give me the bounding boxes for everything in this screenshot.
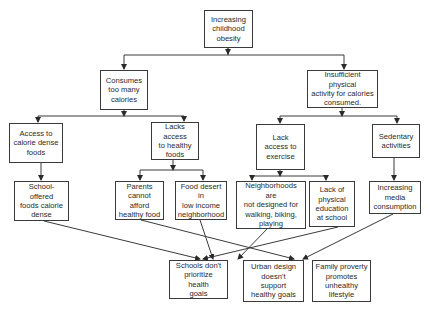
node-insufficient-physical-activity: Insufficient physical activity for calor… (307, 70, 378, 108)
edge-fooddesert-to-urban (200, 220, 213, 259)
node-family-poverty: Family proverty promotes unhealthy lifes… (312, 260, 371, 302)
node-consumes-too-many-calories: Consumes too many calories (100, 70, 148, 110)
node-schools-dont-prioritize: Schools don't prioritize health goals (169, 260, 228, 299)
node-urban-design: Urban design doesn't support healthy goa… (243, 260, 304, 302)
edge-exercise-to-neighborhoods (252, 176, 326, 180)
node-school-offered-foods: School-offered foods calorie dense (14, 181, 69, 221)
edge-root-to-calories (124, 48, 344, 69)
edge-healthy-to-parents (140, 170, 203, 180)
edge-schoolfoods-to-schoolsgoals (44, 221, 200, 259)
node-parents-cannot-afford: Parents cannot afford healthy food (115, 181, 164, 220)
node-increasing-childhood-obesity: Increasing childhood obesity (204, 10, 253, 48)
node-lack-access-to-exercise: Lack access to exercise (256, 124, 305, 170)
node-food-desert: Food desert in low income neighborhood (175, 181, 227, 220)
edge-activity-to-exercise (280, 116, 397, 123)
edge-physed-to-schoolsgoals (203, 227, 338, 259)
edge-neighborhoods-to-urban (238, 229, 267, 259)
node-access-to-calorie-dense-foods: Access to calorie dense foods (9, 123, 63, 163)
node-increasing-media-consumption: Increasing media consumption (369, 181, 421, 214)
diagram-canvas: Increasing childhood obesity Consumes to… (0, 0, 430, 315)
node-neighborhoods-not-designed: Neighborhoods are not designed for walki… (236, 181, 306, 229)
node-lack-of-physical-education: Lack of physical education at school (309, 181, 355, 227)
node-sedentary-activities: Sedentary activities (372, 124, 420, 158)
node-lacks-access-to-healthy-foods: Lacks access to healthy foods (151, 122, 199, 160)
